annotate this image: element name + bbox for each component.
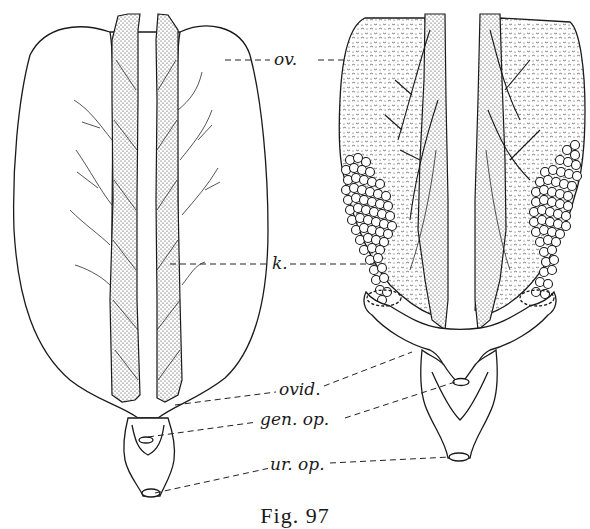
left-genital-opening (139, 437, 153, 443)
left-oviduct-joint (124, 418, 175, 496)
left-drawing (14, 14, 268, 497)
figure-caption: Fig. 97 (0, 503, 590, 529)
label-kidney: k. (270, 254, 290, 272)
left-kidney-1 (110, 14, 140, 402)
label-genital-opening: gen. op. (258, 410, 331, 428)
left-ovary-outline (14, 26, 268, 418)
right-drawing (339, 14, 585, 461)
label-oviduct: ovid. (277, 380, 323, 398)
right-genital-opening (453, 379, 469, 386)
right-urinary-opening (449, 453, 469, 461)
label-ovary: ov. (272, 50, 299, 68)
label-urinary-opening: ur. op. (268, 455, 327, 473)
